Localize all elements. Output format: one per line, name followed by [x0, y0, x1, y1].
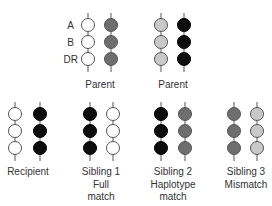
sibling3-allele-a-2-circle-icon — [251, 108, 264, 121]
recipient-allele-b-1-circle-icon — [9, 125, 22, 138]
sibling3-allele-a-1-circle-icon — [228, 108, 241, 121]
sibling2-allele-a-1-circle-icon — [155, 108, 168, 121]
parent1-allele-dr-1-circle-icon — [82, 53, 95, 66]
parent2-label: Parent — [152, 79, 194, 92]
sibling1-allele-b-2-circle-icon — [107, 125, 120, 138]
sibling3-allele-dr-2-circle-icon — [251, 142, 264, 155]
parent2-allele-dr-1-circle-icon — [155, 53, 168, 66]
recipient-allele-dr-2-circle-icon — [34, 142, 47, 155]
locus-label-b: B — [54, 37, 74, 48]
sibling2-label: Sibling 2 Haplotype match — [145, 166, 201, 204]
parent1-allele-b-1-circle-icon — [82, 36, 95, 49]
sibling3-allele-dr-1-circle-icon — [228, 142, 241, 155]
parent2-allele-dr-2-circle-icon — [178, 53, 191, 66]
sibling1-label-line2: Full — [76, 179, 126, 192]
parent1-allele-dr-2-circle-icon — [105, 53, 118, 66]
sibling3-label: Sibling 3 Mismatch — [219, 166, 272, 191]
sibling2-chromosomes — [155, 102, 192, 161]
sibling3-label-line1: Sibling 3 — [219, 166, 272, 179]
sibling2-allele-b-1-circle-icon — [155, 125, 168, 138]
sibling3-allele-b-2-circle-icon — [251, 125, 264, 138]
recipient-allele-b-2-circle-icon — [34, 125, 47, 138]
recipient-allele-a-1-circle-icon — [9, 108, 22, 121]
sibling2-allele-dr-2-circle-icon — [179, 142, 192, 155]
recipient-chromosomes — [9, 102, 47, 161]
sibling3-allele-b-1-circle-icon — [228, 125, 241, 138]
sibling2-allele-b-2-circle-icon — [179, 125, 192, 138]
parent1-allele-b-2-circle-icon — [105, 36, 118, 49]
locus-label-a: A — [54, 20, 74, 31]
parent1-chromosomes — [82, 13, 118, 72]
parent2-allele-b-2-circle-icon — [178, 36, 191, 49]
recipient-allele-dr-1-circle-icon — [9, 142, 22, 155]
recipient-allele-a-2-circle-icon — [34, 108, 47, 121]
parent2-allele-a-1-circle-icon — [155, 19, 168, 32]
sibling1-allele-a-1-circle-icon — [84, 108, 97, 121]
sibling1-allele-b-1-circle-icon — [84, 125, 97, 138]
sibling3-label-line2: Mismatch — [219, 179, 272, 192]
locus-label-dr: DR — [58, 54, 78, 65]
sibling2-allele-a-2-circle-icon — [179, 108, 192, 121]
sibling2-label-line3: match — [145, 191, 201, 204]
sibling2-allele-dr-1-circle-icon — [155, 142, 168, 155]
parent1-allele-a-2-circle-icon — [105, 19, 118, 32]
sibling3-chromosomes — [228, 102, 264, 161]
parent2-allele-b-1-circle-icon — [155, 36, 168, 49]
sibling1-allele-dr-2-circle-icon — [107, 142, 120, 155]
sibling1-label-line3: match — [76, 191, 126, 204]
parent1-allele-a-1-circle-icon — [82, 19, 95, 32]
recipient-label: Recipient — [2, 166, 54, 179]
sibling2-label-line2: Haplotype — [145, 179, 201, 192]
sibling1-allele-a-2-circle-icon — [107, 108, 120, 121]
sibling1-allele-dr-1-circle-icon — [84, 142, 97, 155]
sibling1-label: Sibling 1 Full match — [76, 166, 126, 204]
parent2-chromosomes — [155, 13, 191, 72]
sibling1-label-line1: Sibling 1 — [76, 166, 126, 179]
parent2-allele-a-2-circle-icon — [178, 19, 191, 32]
sibling1-chromosomes — [84, 102, 120, 161]
parent1-label: Parent — [79, 79, 121, 92]
sibling2-label-line1: Sibling 2 — [145, 166, 201, 179]
